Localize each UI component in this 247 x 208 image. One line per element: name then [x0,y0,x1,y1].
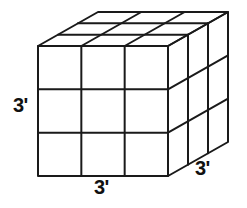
front-face-fill [38,46,168,176]
depth-dimension-label: 3' [195,158,210,178]
face-fills [38,12,228,176]
height-dimension-label: 3' [13,95,28,115]
cube-drawing [0,0,247,208]
cube-figure: 3' 3' 3' [0,0,247,208]
width-dimension-label: 3' [94,177,109,197]
